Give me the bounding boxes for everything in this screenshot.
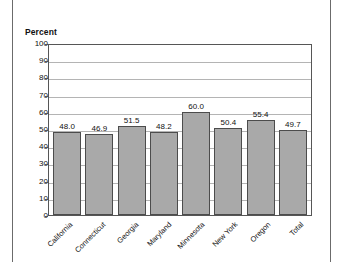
bar-value-label: 50.4 bbox=[221, 118, 237, 127]
bar-value-label: 55.4 bbox=[253, 110, 269, 119]
bar-slot: 51.5 bbox=[118, 45, 146, 215]
bar-value-label: 60.0 bbox=[188, 102, 204, 111]
bar-slot: 60.0 bbox=[182, 45, 210, 215]
x-axis-label-california: California bbox=[0, 220, 74, 262]
bar-slot: 48.2 bbox=[150, 45, 178, 215]
bar-slot: 50.4 bbox=[214, 45, 242, 215]
bar-new-york[interactable] bbox=[214, 128, 242, 215]
bar-minnesota[interactable] bbox=[182, 112, 210, 215]
bar-connecticut[interactable] bbox=[85, 134, 113, 215]
bar-value-label: 51.5 bbox=[124, 116, 140, 125]
bar-california[interactable] bbox=[53, 132, 81, 215]
bar-value-label: 48.0 bbox=[59, 122, 75, 131]
bar-total[interactable] bbox=[279, 130, 307, 215]
bar-chart-figure: Percent 0102030405060708090100 48.046.95… bbox=[0, 0, 340, 262]
bar-maryland[interactable] bbox=[150, 132, 178, 215]
bar-slot: 48.0 bbox=[53, 45, 81, 215]
y-axis-tick-group: 0102030405060708090100 bbox=[20, 44, 48, 216]
bar-slot: 55.4 bbox=[247, 45, 275, 215]
y-axis-title: Percent bbox=[25, 27, 57, 37]
bar-value-label: 49.7 bbox=[285, 120, 301, 129]
bar-value-label: 46.9 bbox=[92, 124, 108, 133]
bar-slot: 46.9 bbox=[85, 45, 113, 215]
bar-slot: 49.7 bbox=[279, 45, 307, 215]
bar-georgia[interactable] bbox=[118, 126, 146, 215]
bar-group: 48.046.951.548.260.050.455.449.7 bbox=[49, 45, 311, 215]
bar-oregon[interactable] bbox=[247, 120, 275, 215]
bar-value-label: 48.2 bbox=[156, 122, 172, 131]
plot-area: 48.046.951.548.260.050.455.449.7 bbox=[48, 44, 312, 216]
x-axis-label-group: CaliforniaConnecticutGeorgiaMarylandMinn… bbox=[48, 216, 312, 262]
